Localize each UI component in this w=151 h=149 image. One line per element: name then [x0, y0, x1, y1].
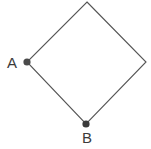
- vertex-point-a-dot: [23, 58, 30, 65]
- geometry-figure-canvas: A B: [0, 0, 151, 149]
- vertex-label-b: B: [82, 130, 92, 145]
- diamond-shape-svg: [0, 0, 151, 149]
- vertex-label-a: A: [7, 55, 17, 70]
- square-rotated-outline: [27, 2, 146, 124]
- vertex-point-b-dot: [82, 120, 89, 127]
